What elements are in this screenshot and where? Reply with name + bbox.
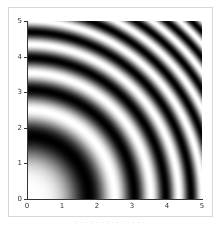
x-tick-label: 2 <box>92 202 102 210</box>
y-tick-label: 2 <box>10 124 22 132</box>
x-tick-label: 3 <box>127 202 137 210</box>
x-tick-label: 0 <box>22 202 32 210</box>
x-tick-label: 1 <box>57 202 67 210</box>
y-tick-label: 3 <box>10 88 22 96</box>
y-tick-label: 5 <box>10 17 22 25</box>
figure-caption: · · · · · · · · · · · · · · <box>8 219 213 225</box>
heatmap-canvas <box>27 21 202 199</box>
x-axis-line <box>27 199 203 200</box>
y-tick-label: 1 <box>10 159 22 167</box>
x-tick-label: 5 <box>197 202 207 210</box>
x-tick-label: 4 <box>162 202 172 210</box>
y-axis-line <box>27 21 28 199</box>
y-tick-label: 4 <box>10 53 22 61</box>
heatmap-plot-area <box>27 21 202 199</box>
y-tick-label: 0 <box>10 195 22 203</box>
